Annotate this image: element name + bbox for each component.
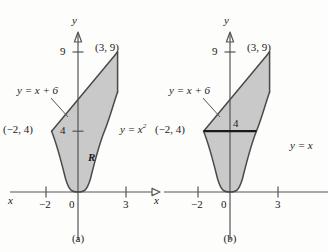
line-equation-label-a: y = x + 6 [17, 85, 58, 96]
y-axis-label-a: y [72, 15, 77, 26]
point-label-neg2-4-a: (−2, 4) [3, 124, 33, 135]
figure-container: y x 9 4 −2 3 0 (3, 9) (−2, 4) y = x + 6 … [0, 0, 328, 252]
x-tick-label-3-a: 3 [123, 199, 129, 210]
parabola-exponent-a: 2 [143, 122, 147, 130]
x-tick-label-neg2-a: −2 [39, 199, 51, 210]
parabola-equation-label-b: y = x [290, 140, 313, 151]
y-tick-label-9-a: 9 [60, 46, 66, 57]
parabola-equation-text-b: y = x [290, 139, 313, 151]
y-tick-label-9-b: 9 [212, 46, 218, 57]
x-axis-label-b: x [8, 195, 13, 206]
y-axis-label-b: y [224, 15, 229, 26]
point-label-neg2-4-b: (−2, 4) [155, 124, 185, 135]
leader-line-a [51, 98, 68, 117]
x-tick-label-3-b: 3 [275, 199, 281, 210]
origin-label-a: 0 [69, 199, 75, 210]
x-axis-label-a: x [154, 195, 159, 206]
panel-b: y x 9 4 −2 3 0 (3, 9) (−2, 4) y = x + 6 … [164, 0, 328, 252]
parabola-equation-label-a: y = x2 [120, 124, 146, 135]
leader-line-b [203, 98, 220, 117]
origin-label-b: 0 [221, 199, 227, 210]
slice-level-label-b: 4 [233, 118, 239, 129]
panel-a: y x 9 4 −2 3 0 (3, 9) (−2, 4) y = x + 6 … [0, 0, 164, 252]
region-label-a: R [88, 152, 95, 163]
panel-b-plot [164, 0, 328, 252]
y-tick-label-4-a: 4 [60, 125, 66, 136]
line-equation-label-b: y = x + 6 [169, 85, 210, 96]
point-label-3-9-a: (3, 9) [95, 42, 119, 53]
x-tick-label-neg2-b: −2 [191, 199, 203, 210]
panel-caption-a: (a) [58, 232, 98, 244]
parabola-equation-text-a: y = x [120, 123, 143, 135]
panel-caption-b: (b) [210, 232, 250, 244]
point-label-3-9-b: (3, 9) [247, 42, 271, 53]
